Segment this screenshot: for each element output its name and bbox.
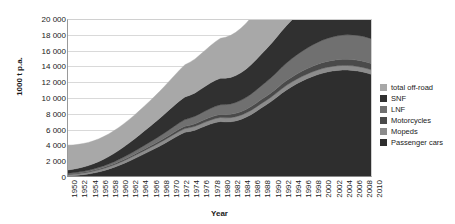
legend-label: SNF (391, 94, 406, 103)
x-tick-label: 1990 (274, 180, 283, 198)
legend-item[interactable]: Passenger cars (380, 137, 455, 148)
x-tick-label: 1952 (80, 180, 89, 198)
x-tick-label: 1970 (172, 180, 181, 198)
x-tick-label: 1954 (91, 180, 100, 198)
x-tick-label: 1950 (70, 180, 79, 198)
stacked-area-chart: 1000 t p.a. 02 0004 0006 0008 00010 0001… (0, 0, 455, 224)
legend-item[interactable]: total off-road (380, 82, 455, 93)
legend-item[interactable]: Mopeds (380, 126, 455, 137)
x-tick-label: 2002 (335, 180, 344, 198)
x-tick-label: 1998 (314, 180, 323, 198)
x-tick-label: 1976 (202, 180, 211, 198)
legend-label: LNF (391, 105, 405, 114)
x-tick-label: 1978 (213, 180, 222, 198)
legend-swatch-icon (380, 117, 387, 124)
legend-label: Mopeds (391, 127, 418, 136)
x-tick-label: 1974 (192, 180, 201, 198)
x-tick-label: 1992 (284, 180, 293, 198)
legend-item[interactable]: LNF (380, 104, 455, 115)
legend-swatch-icon (380, 139, 387, 146)
x-tick-label: 1962 (131, 180, 140, 198)
x-axis-title: Year (67, 209, 372, 218)
x-tick-label: 2010 (375, 180, 384, 198)
x-tick-label: 2008 (365, 180, 374, 198)
legend-item[interactable]: Motorcycles (380, 115, 455, 126)
legend-item[interactable]: SNF (380, 93, 455, 104)
x-tick-label: 1986 (253, 180, 262, 198)
x-tick-label: 1964 (141, 180, 150, 198)
legend-swatch-icon (380, 128, 387, 135)
legend-label: Motorcycles (391, 116, 431, 125)
legend-label: Passenger cars (391, 138, 443, 147)
legend-swatch-icon (380, 95, 387, 102)
x-tick-label: 1960 (121, 180, 130, 198)
x-tick-label: 1956 (101, 180, 110, 198)
legend-swatch-icon (380, 106, 387, 113)
x-tick-label: 1968 (162, 180, 171, 198)
legend-swatch-icon (380, 84, 387, 91)
x-tick-label: 1982 (233, 180, 242, 198)
x-tick-label: 1984 (243, 180, 252, 198)
x-tick-label: 1972 (182, 180, 191, 198)
legend-label: total off-road (391, 83, 433, 92)
chart-legend: total off-roadSNFLNFMotorcyclesMopedsPas… (380, 82, 455, 148)
x-tick-label: 1980 (223, 180, 232, 198)
x-tick-label: 2004 (345, 180, 354, 198)
x-tick-label: 2000 (324, 180, 333, 198)
x-tick-label: 1996 (304, 180, 313, 198)
x-tick-label: 1958 (111, 180, 120, 198)
x-tick-label: 2006 (355, 180, 364, 198)
x-tick-label: 1988 (263, 180, 272, 198)
x-tick-label: 1994 (294, 180, 303, 198)
x-tick-label: 1966 (152, 180, 161, 198)
